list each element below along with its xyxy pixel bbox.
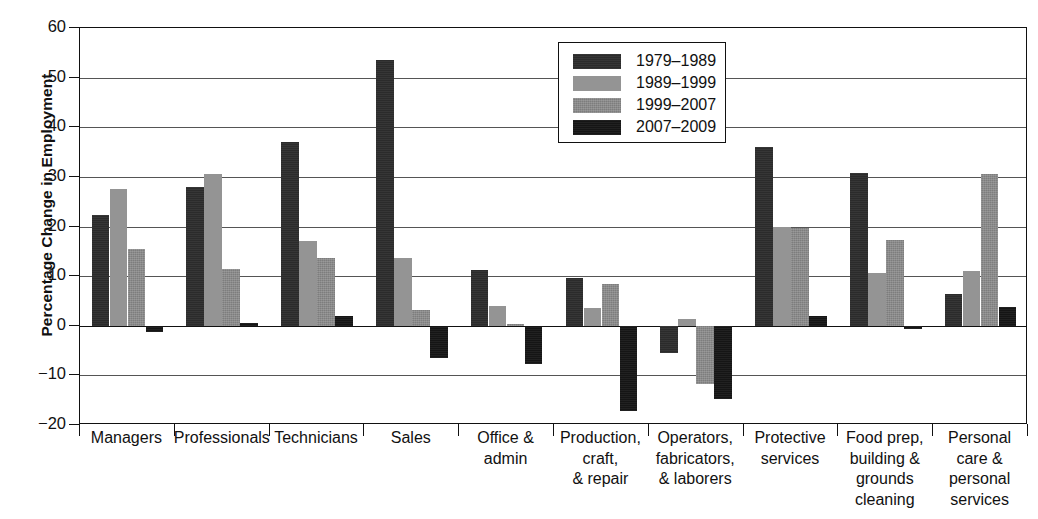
x-axis-label-line: Production, bbox=[553, 428, 648, 449]
legend-label: 2007–2009 bbox=[636, 119, 716, 135]
x-axis-label: Technicians bbox=[269, 428, 364, 449]
bar bbox=[222, 269, 240, 326]
bar bbox=[809, 316, 827, 326]
bar bbox=[773, 227, 791, 326]
y-tick-label: 60 bbox=[14, 18, 66, 34]
bar bbox=[868, 273, 886, 326]
y-tick-label: 10 bbox=[14, 266, 66, 282]
bar bbox=[489, 306, 507, 325]
x-axis-label: Sales bbox=[363, 428, 458, 449]
x-axis-label-line: Office & bbox=[458, 428, 553, 449]
y-tick-label: −10 bbox=[14, 365, 66, 381]
legend-swatch bbox=[573, 120, 621, 135]
x-tick bbox=[1027, 424, 1028, 436]
x-axis-label-line: fabricators, bbox=[648, 449, 743, 470]
y-tick-label: 50 bbox=[14, 68, 66, 84]
x-axis-label-line: & laborers bbox=[648, 469, 743, 490]
x-axis-label-line: Professionals bbox=[174, 428, 269, 449]
x-axis-label: Production,craft,& repair bbox=[553, 428, 648, 490]
legend-item: 1989–1999 bbox=[559, 72, 725, 94]
bar bbox=[566, 278, 584, 326]
x-axis-label-line: care & bbox=[932, 449, 1027, 470]
legend-label: 1999–2007 bbox=[636, 97, 716, 113]
y-tick-label: 0 bbox=[14, 316, 66, 332]
x-axis-label-line: personal bbox=[932, 469, 1027, 490]
bar bbox=[696, 326, 714, 385]
legend-swatch bbox=[573, 76, 621, 91]
x-axis-label: Managers bbox=[79, 428, 174, 449]
x-axis-label-line: Managers bbox=[79, 428, 174, 449]
zero-line bbox=[80, 326, 1026, 327]
x-axis-label-line: grounds bbox=[837, 469, 932, 490]
plot-inner bbox=[80, 28, 1026, 423]
bar bbox=[92, 215, 110, 326]
y-tick-label: −20 bbox=[14, 415, 66, 431]
x-axis-label-line: cleaning bbox=[837, 490, 932, 511]
bar bbox=[146, 326, 164, 332]
bar bbox=[584, 308, 602, 325]
bar bbox=[850, 173, 868, 325]
bar bbox=[678, 319, 696, 326]
x-axis-label-line: services bbox=[743, 449, 838, 470]
x-axis-label-line: Personal bbox=[932, 428, 1027, 449]
x-axis-label-line: & repair bbox=[553, 469, 648, 490]
bar bbox=[714, 326, 732, 399]
legend-label: 1989–1999 bbox=[636, 75, 716, 91]
legend-swatch bbox=[573, 54, 621, 69]
y-tick-label: 20 bbox=[14, 217, 66, 233]
bar bbox=[394, 258, 412, 326]
chart-figure: Percentage Change in Employment 60504030… bbox=[0, 0, 1038, 519]
bar bbox=[376, 60, 394, 325]
bar bbox=[791, 228, 809, 325]
x-axis-label-line: building & bbox=[837, 449, 932, 470]
bar bbox=[963, 271, 981, 326]
legend-swatch bbox=[573, 98, 621, 113]
bar bbox=[660, 326, 678, 353]
bar bbox=[602, 284, 620, 326]
legend-item: 2007–2009 bbox=[559, 116, 725, 138]
bar bbox=[299, 241, 317, 325]
x-axis-label: Food prep,building &groundscleaning bbox=[837, 428, 932, 510]
bar bbox=[904, 326, 922, 329]
x-axis-label-line: services bbox=[932, 490, 1027, 511]
bar bbox=[128, 249, 146, 325]
bar bbox=[110, 189, 128, 326]
x-axis-label: Operators,fabricators,& laborers bbox=[648, 428, 743, 490]
legend-item: 1979–1989 bbox=[559, 50, 725, 72]
bar bbox=[945, 294, 963, 326]
bar bbox=[755, 147, 773, 326]
x-axis-label-line: Food prep, bbox=[837, 428, 932, 449]
x-axis-label-line: admin bbox=[458, 449, 553, 470]
legend-label: 1979–1989 bbox=[636, 53, 716, 69]
chart-legend: 1979–19891989–19991999–20072007–2009 bbox=[558, 42, 726, 143]
x-axis-label-line: Operators, bbox=[648, 428, 743, 449]
bar bbox=[335, 316, 353, 326]
bar bbox=[981, 174, 999, 326]
x-axis-label: Office &admin bbox=[458, 428, 553, 469]
bar bbox=[999, 307, 1017, 325]
gridline bbox=[80, 127, 1026, 128]
gridline bbox=[80, 78, 1026, 79]
bar bbox=[886, 240, 904, 325]
x-axis-label-line: Technicians bbox=[269, 428, 364, 449]
bar bbox=[240, 323, 258, 325]
bar bbox=[430, 326, 448, 358]
legend-rows: 1979–19891989–19991999–20072007–2009 bbox=[559, 50, 725, 138]
bar bbox=[471, 270, 489, 326]
x-axis-label-line: Protective bbox=[743, 428, 838, 449]
x-axis-label-line: Sales bbox=[363, 428, 458, 449]
plot-area bbox=[79, 27, 1027, 424]
x-axis-label: Professionals bbox=[174, 428, 269, 449]
bar bbox=[317, 258, 335, 326]
legend-item: 1999–2007 bbox=[559, 94, 725, 116]
y-tick-label: 30 bbox=[14, 167, 66, 183]
bar bbox=[525, 326, 543, 365]
bar bbox=[204, 174, 222, 325]
y-tick-label: 40 bbox=[14, 117, 66, 133]
bar bbox=[186, 187, 204, 325]
bar bbox=[507, 324, 525, 326]
gridline bbox=[80, 375, 1026, 376]
bar bbox=[281, 142, 299, 326]
x-axis-label: Protectiveservices bbox=[743, 428, 838, 469]
bar bbox=[620, 326, 638, 411]
